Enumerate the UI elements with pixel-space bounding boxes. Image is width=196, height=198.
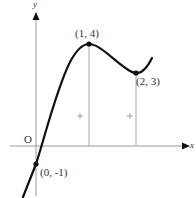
tick-mark-plus (77, 113, 83, 119)
point-max-label: (1, 4) (75, 28, 99, 39)
point-y-intercept-label: (0, -1) (40, 167, 68, 178)
point-max (86, 41, 91, 46)
point-min-label: (2, 3) (136, 76, 160, 87)
function-graph: y x O (1, 4) (2, 3) (0, -1) (0, 0, 196, 198)
tick-mark-plus (127, 113, 133, 119)
origin-label: O (24, 134, 32, 145)
point-y-intercept (33, 161, 38, 166)
y-axis-label: y (33, 0, 37, 9)
x-axis-label: x (190, 141, 194, 150)
y-axis-arrow-icon (33, 12, 40, 20)
x-axis-arrow-icon (182, 143, 190, 150)
